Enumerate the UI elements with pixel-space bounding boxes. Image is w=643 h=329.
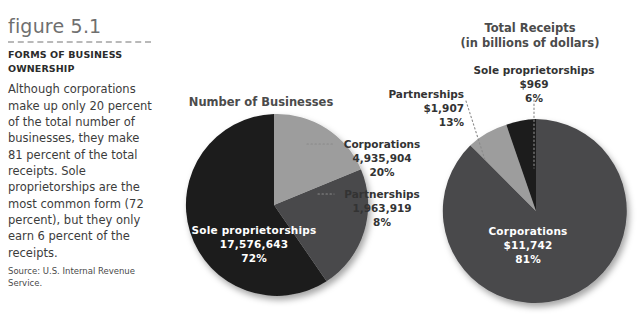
callout-percent: 6% [468,92,600,106]
chart-title-text: Total Receipts [450,21,610,36]
callout-value: 1,963,919 [336,202,428,216]
callout-value: 4,935,904 [336,152,428,166]
figure-heading: FORMS OF BUSINESS OWNERSHIP [8,48,156,76]
pie-inlabel-corporations: Corporations $11,742 81% [465,224,591,266]
figure-source: Source: U.S. Internal Revenue Service. [8,266,156,289]
pie-chart-total-receipts [444,119,634,315]
pie-callout-corporations-left: Corporations 4,935,904 20% [336,138,428,180]
callout-value: $1,907 [376,102,464,116]
chart-subtitle-text: (in billions of dollars) [450,36,610,51]
callout-name: Partnerships [376,88,464,102]
pie-callout-sole-proprietorships-right: Sole proprietorships $969 6% [468,64,600,106]
pie-callout-partnerships-right: Partnerships $1,907 13% [376,88,464,130]
figure-number: figure 5.1 [8,16,156,37]
inlabel-value: 17,576,643 [183,237,325,251]
chart-title-number-of-businesses: Number of Businesses [186,95,336,110]
callout-percent: 8% [336,216,428,230]
inlabel-percent: 72% [183,251,325,265]
callout-percent: 20% [336,166,428,180]
pie-inlabel-sole-proprietorships: Sole proprietorships 17,576,643 72% [183,223,325,265]
callout-name: Partnerships [336,188,428,202]
pie-callout-partnerships-left: Partnerships 1,963,919 8% [336,188,428,230]
inlabel-percent: 81% [465,252,591,266]
inlabel-name: Corporations [465,224,591,238]
inlabel-name: Sole proprietorships [183,223,325,237]
figure-body-text: Although corporations make up only 20 pe… [8,81,156,261]
caption-divider [8,41,151,43]
callout-name: Corporations [336,138,428,152]
figure-caption-column: figure 5.1 FORMS OF BUSINESS OWNERSHIP A… [8,16,156,289]
callout-percent: 13% [376,116,464,130]
callout-name: Sole proprietorships [468,64,600,78]
inlabel-value: $11,742 [465,238,591,252]
callout-value: $969 [468,78,600,92]
chart-title-total-receipts: Total Receipts (in billions of dollars) [450,21,610,51]
